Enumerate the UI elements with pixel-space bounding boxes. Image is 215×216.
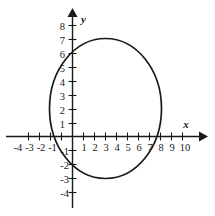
y-tick-label: 2 xyxy=(60,105,65,116)
x-axis-label: x xyxy=(182,118,189,130)
x-tick-labels: -4 -3 -2 -1 1 2 3 4 5 6 7 8 9 10 xyxy=(14,142,191,153)
x-tick-label: 1 xyxy=(81,142,86,153)
x-tick-label: 4 xyxy=(114,142,120,153)
x-tick-label: 8 xyxy=(158,142,163,153)
y-tick-label: -1 xyxy=(60,146,69,157)
y-tick-label: 6 xyxy=(60,49,65,60)
y-tick-label: 8 xyxy=(60,21,65,32)
y-tick-label: 1 xyxy=(60,119,65,130)
y-tick-label: 5 xyxy=(60,63,65,74)
x-tick-label: 5 xyxy=(125,142,130,153)
y-tick-label: -3 xyxy=(60,174,69,185)
y-tick-label: -2 xyxy=(60,160,69,171)
x-tick-label: 2 xyxy=(92,142,97,153)
y-tick-label: -4 xyxy=(60,188,69,199)
x-tick-label: -4 xyxy=(14,142,23,153)
x-axis-arrowhead xyxy=(199,132,208,142)
x-tick-label: 3 xyxy=(103,142,108,153)
x-tick-label: 7 xyxy=(147,142,152,153)
x-tick-label: -2 xyxy=(37,142,46,153)
y-tick-label: 7 xyxy=(60,35,65,46)
y-axis-arrowhead xyxy=(68,8,78,17)
circle-curve xyxy=(50,39,162,179)
y-tick-label: 4 xyxy=(60,77,66,88)
y-tick-label: 3 xyxy=(60,91,65,102)
x-tick-label: 6 xyxy=(136,142,141,153)
x-tick-label: 9 xyxy=(169,142,174,153)
y-axis-label: y xyxy=(79,13,86,25)
x-axis xyxy=(6,132,208,142)
x-tick-label: -1 xyxy=(48,142,57,153)
coordinate-plane-svg: x y -4 -3 -2 -1 1 2 3 4 5 6 7 8 9 10 8 7… xyxy=(0,0,215,216)
graph-figure: x y -4 -3 -2 -1 1 2 3 4 5 6 7 8 9 10 8 7… xyxy=(0,0,215,216)
x-tick-label: 10 xyxy=(180,142,191,153)
x-tick-label: -3 xyxy=(25,142,34,153)
y-tick-labels: 8 7 6 5 4 3 2 1 -1 -2 -3 -4 xyxy=(60,21,70,199)
